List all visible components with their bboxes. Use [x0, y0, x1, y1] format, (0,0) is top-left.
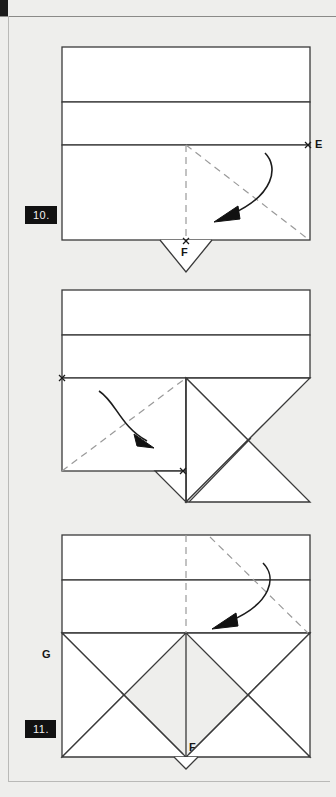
point-label-E: E	[315, 139, 322, 150]
paper-band-middle	[62, 102, 310, 145]
step-11-figure	[0, 278, 336, 538]
step-11-panel: G F 11.	[0, 278, 336, 538]
bottom-left-flap	[155, 471, 186, 502]
step-10-panel: E F 10.	[0, 0, 336, 290]
paper-band-top	[62, 47, 310, 102]
step-badge-10: 10.	[25, 206, 57, 224]
bottom-v-notch	[174, 757, 198, 769]
diagram-page: E F 10.	[0, 0, 336, 797]
step-12-panel: 12.	[0, 525, 336, 775]
step-10-figure	[0, 0, 336, 290]
point-label-F-step10: F	[181, 247, 188, 258]
page-bottom-rule	[8, 781, 330, 782]
paper-band-middle	[62, 335, 310, 378]
paper-band-top	[62, 290, 310, 335]
step-12-figure	[0, 525, 336, 775]
